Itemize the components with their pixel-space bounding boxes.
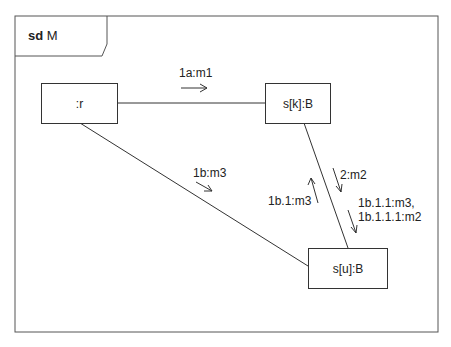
- message-label: 1a:m1: [179, 66, 212, 80]
- lifeline-label: s[u]:B: [333, 262, 364, 276]
- lifeline-su[interactable]: s[u]:B: [308, 248, 388, 289]
- message-label: 1b.1.1.1:m2: [358, 210, 421, 224]
- lifeline-r[interactable]: :r: [41, 83, 118, 124]
- arrow-down-icon: [348, 210, 357, 233]
- frame-name: M: [47, 28, 58, 43]
- frame-keyword: sd: [28, 28, 43, 43]
- arrow-right-icon: [181, 84, 207, 92]
- arrow-down-right-icon: [196, 182, 212, 191]
- lifeline-label: :r: [76, 97, 83, 111]
- message-label: 1b:m3: [193, 166, 226, 180]
- message-label: 1b.1.1:m3,: [358, 196, 415, 210]
- lifeline-sk[interactable]: s[k]:B: [265, 83, 331, 124]
- frame-title: sd M: [28, 28, 58, 43]
- message-label: 1b.1:m3: [268, 194, 311, 208]
- lifeline-label: s[k]:B: [283, 97, 313, 111]
- message-label: 2:m2: [340, 168, 367, 182]
